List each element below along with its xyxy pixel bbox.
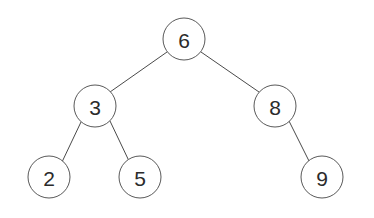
- tree-edge: [110, 121, 129, 161]
- tree-node[interactable]: 2: [28, 156, 70, 198]
- tree-edge: [62, 122, 81, 162]
- node-label: 3: [89, 96, 101, 119]
- node-label: 2: [43, 167, 55, 190]
- tree-node[interactable]: 6: [163, 18, 205, 60]
- tree-node[interactable]: 3: [74, 85, 116, 127]
- node-label: 8: [269, 96, 281, 119]
- tree-svg-canvas: 638259: [0, 0, 374, 218]
- node-layer: 638259: [28, 18, 343, 198]
- binary-tree-diagram: 638259: [0, 0, 374, 218]
- tree-edge: [201, 52, 259, 92]
- tree-edge: [289, 121, 309, 161]
- node-label: 5: [134, 167, 146, 190]
- node-label: 6: [178, 29, 190, 52]
- tree-node[interactable]: 8: [254, 85, 296, 127]
- tree-node[interactable]: 5: [119, 156, 161, 198]
- tree-node[interactable]: 9: [301, 156, 343, 198]
- tree-edge: [110, 52, 167, 92]
- node-label: 9: [316, 167, 328, 190]
